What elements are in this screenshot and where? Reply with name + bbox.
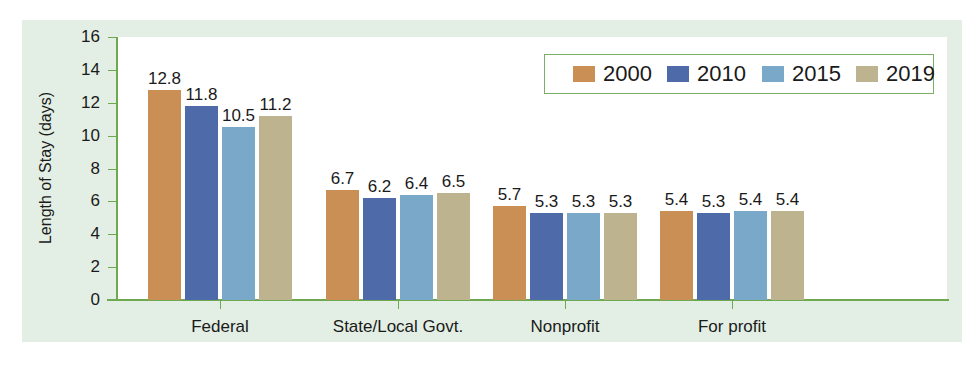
y-tick-label: 0 <box>60 291 100 309</box>
bar-2019 <box>259 116 292 300</box>
y-tick-label: 4 <box>60 225 100 243</box>
legend-label: 2019 <box>886 62 935 86</box>
bar-2015 <box>567 213 600 300</box>
bar-2019 <box>771 211 804 300</box>
x-category-label: For profit <box>632 317 832 337</box>
y-tick-label: 16 <box>60 28 100 46</box>
legend-item-2000: 2000 <box>573 62 652 86</box>
bar-value-label: 5.3 <box>596 193 646 211</box>
legend-swatch-2010 <box>667 66 689 82</box>
y-axis-line <box>116 37 118 301</box>
legend-item-2015: 2015 <box>762 62 841 86</box>
x-tick-mark <box>565 301 566 309</box>
y-axis-title: Length of Stay (days) <box>37 92 55 244</box>
bar-value-label: 11.2 <box>251 96 301 114</box>
bar-2015 <box>400 195 433 300</box>
bar-value-label: 6.5 <box>429 173 479 191</box>
bar-value-label: 11.8 <box>177 86 227 104</box>
legend-label: 2015 <box>792 62 841 86</box>
y-tick-label: 12 <box>60 94 100 112</box>
x-category-label: Federal <box>120 317 320 337</box>
bar-2010 <box>363 198 396 300</box>
legend-label: 2000 <box>603 62 652 86</box>
legend-swatch-2015 <box>762 66 784 82</box>
legend-item-2010: 2010 <box>667 62 746 86</box>
legend: 2000 2010 2015 2019 <box>544 54 934 94</box>
x-tick-mark <box>398 301 399 309</box>
x-tick-mark <box>220 301 221 309</box>
x-tick-mark <box>732 301 733 309</box>
bar-2019 <box>604 213 637 300</box>
bar-2015 <box>734 211 767 300</box>
bar-2000 <box>326 190 359 300</box>
bar-2015 <box>222 127 255 300</box>
bar-2010 <box>697 213 730 300</box>
legend-item-2019: 2019 <box>856 62 935 86</box>
bar-2019 <box>437 193 470 300</box>
y-tick-label: 8 <box>60 160 100 178</box>
y-tick-label: 14 <box>60 61 100 79</box>
bar-2000 <box>660 211 693 300</box>
y-tick-label: 6 <box>60 192 100 210</box>
bar-2000 <box>493 206 526 300</box>
y-tick-label: 2 <box>60 258 100 276</box>
legend-label: 2010 <box>697 62 746 86</box>
bar-2010 <box>185 106 218 300</box>
y-tick-label: 10 <box>60 127 100 145</box>
legend-swatch-2000 <box>573 66 595 82</box>
legend-swatch-2019 <box>856 66 878 82</box>
bar-value-label: 5.4 <box>763 191 813 209</box>
bar-2000 <box>148 90 181 300</box>
bar-2010 <box>530 213 563 300</box>
